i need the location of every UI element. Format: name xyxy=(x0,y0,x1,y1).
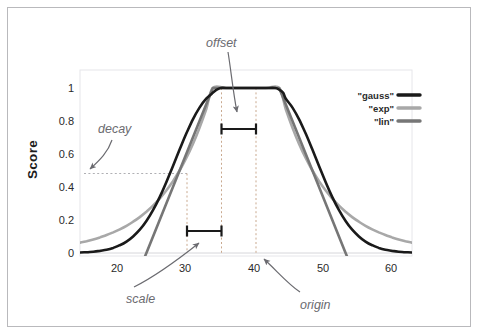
legend xyxy=(398,95,420,121)
arrow-origin xyxy=(264,259,300,292)
arrow-decay xyxy=(90,140,112,169)
chart-page: Score 1 0.8 0.6 0.4 0.2 0 20 30 40 50 60… xyxy=(0,0,481,336)
bracket-offset xyxy=(222,124,257,135)
series-line-lin xyxy=(144,88,349,260)
plot-canvas xyxy=(0,0,481,336)
arrow-scale xyxy=(134,243,199,287)
series-line-exp xyxy=(80,86,412,242)
arrow-offset xyxy=(228,52,237,112)
series-line-gauss xyxy=(80,88,412,253)
plot-area-panel xyxy=(80,70,412,256)
bracket-scale xyxy=(187,226,222,237)
